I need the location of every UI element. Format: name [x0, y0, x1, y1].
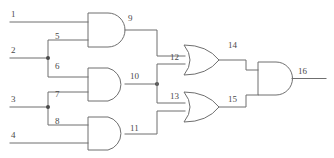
wire-net-8	[48, 107, 88, 125]
net-label-8: 8	[55, 117, 60, 126]
net-label-12: 12	[170, 53, 179, 62]
and-gate-10-body	[88, 68, 121, 101]
junction-net-3	[46, 105, 50, 109]
net-label-10: 10	[130, 72, 139, 81]
wire-net-7	[48, 92, 88, 107]
wire-net-5	[48, 40, 88, 58]
and-gate-16-body	[258, 62, 293, 95]
net-label-2: 2	[11, 46, 16, 55]
net-label-3: 3	[11, 95, 16, 104]
net-label-6: 6	[55, 62, 60, 71]
wire-net-14	[219, 60, 258, 70]
net-label-15: 15	[228, 95, 237, 104]
net-label-5: 5	[55, 32, 60, 41]
net-label-9: 9	[128, 14, 133, 23]
junction-net-2	[46, 56, 50, 60]
wire-net-15	[219, 95, 258, 107]
or-gate-15-body	[184, 92, 219, 122]
net-label-4: 4	[11, 131, 16, 140]
circuit-schematic-canvas	[0, 0, 334, 158]
logic-circuit-diagram: 1 2 3 4 5 6 7 8 9 10 11 12 13 14 15 16	[0, 0, 334, 158]
or-gate-14-body	[184, 45, 219, 75]
net-label-13: 13	[170, 92, 179, 101]
net-label-14: 14	[228, 41, 237, 50]
net-label-11: 11	[130, 124, 139, 133]
net-label-1: 1	[11, 10, 16, 19]
net-label-7: 7	[55, 90, 60, 99]
wire-net-6	[48, 58, 88, 77]
and-gate-11-body	[88, 117, 121, 150]
and-gate-9-body	[88, 13, 125, 47]
wire-net-12	[157, 64, 185, 84]
net-label-16: 16	[298, 67, 307, 76]
